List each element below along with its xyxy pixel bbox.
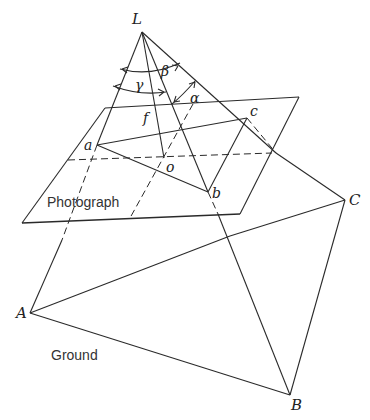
label-f: f [142, 110, 151, 126]
label-beta: β [160, 63, 169, 79]
photogrammetry-diagram: L a o b c A B C β γ α f Photograph Groun… [0, 0, 370, 420]
photo-y-axis [130, 104, 193, 218]
ray-B-lower [218, 214, 290, 395]
label-photograph: Photograph [47, 194, 119, 210]
line-a-c [97, 118, 247, 145]
label-C: C [349, 191, 361, 209]
ground-triangle [30, 200, 345, 395]
label-alpha: α [190, 90, 200, 106]
photo-right-edge [240, 97, 299, 214]
label-b: b [212, 185, 221, 201]
ray-c-hidden [247, 118, 276, 153]
rays [30, 32, 345, 395]
label-a: a [84, 137, 92, 153]
line-A-C-visible [30, 236, 230, 313]
ray-C-lower [276, 153, 345, 200]
label-L: L [131, 10, 142, 28]
photo-top-edge [105, 97, 299, 108]
line-B-C [290, 200, 345, 395]
label-c: c [250, 103, 258, 119]
label-B: B [290, 396, 302, 414]
label-o: o [166, 159, 174, 175]
label-ground: Ground [51, 347, 98, 363]
label-A: A [14, 304, 27, 322]
line-A-C-right [230, 200, 345, 236]
label-gamma: γ [135, 77, 144, 93]
